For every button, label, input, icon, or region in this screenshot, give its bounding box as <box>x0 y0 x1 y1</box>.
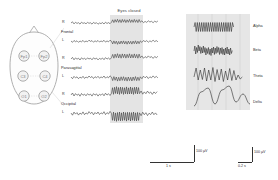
head-montage-panel: Fp1 Fp2 C3 C4 O1 <box>2 22 64 106</box>
waveform-delta <box>194 86 250 106</box>
frequency-band-panel: Alpha Beta Theta Delta <box>186 14 278 114</box>
head-diagram: Fp1 Fp2 C3 C4 O1 <box>2 22 64 106</box>
svg-text:Fp1: Fp1 <box>21 54 29 59</box>
waveform-parasagittal-r <box>71 54 158 60</box>
scalebar-right-amp-label: 100 µV <box>254 150 265 154</box>
waveform-alpha <box>194 23 234 32</box>
electrode-o1[interactable]: O1 <box>19 91 29 101</box>
waveform-occipital-l <box>71 111 157 121</box>
electrode-c4[interactable]: C4 <box>40 71 50 81</box>
scalebar-right-amp-line <box>252 147 253 162</box>
svg-text:C3: C3 <box>20 74 26 79</box>
scalebar-left-amp-line <box>194 145 195 162</box>
electrode-fp2[interactable]: Fp2 <box>39 51 49 61</box>
eeg-figure: Fp1 Fp2 C3 C4 O1 <box>0 0 278 180</box>
electrode-fp1[interactable]: Fp1 <box>19 51 29 61</box>
scalebar-left-time-label: 1 s <box>166 164 171 168</box>
head-outline <box>10 32 58 104</box>
svg-text:O2: O2 <box>41 94 47 99</box>
scalebar-left-amp-label: 100 µV <box>196 149 207 153</box>
waveform-frontal-r <box>71 19 158 24</box>
eyes-closed-title: Eyes closed <box>94 8 164 13</box>
svg-text:O1: O1 <box>21 94 27 99</box>
electrode-o2[interactable]: O2 <box>39 91 49 101</box>
waveform-theta <box>194 68 242 82</box>
waveform-parasagittal-l <box>71 76 158 81</box>
waveform-frontal-l <box>71 40 158 44</box>
band-label-delta: Delta <box>253 100 262 104</box>
band-label-theta: Theta <box>253 74 263 78</box>
scalebar-left: 1 s 100 µV <box>150 140 210 170</box>
scalebar-right-time-label: 0.2 s <box>238 164 246 168</box>
eeg-trace-panel: Eyes closed R L R L R L Frontal Parasagi… <box>60 8 178 123</box>
band-label-beta: Beta <box>253 48 261 52</box>
band-waveforms <box>186 14 278 114</box>
svg-text:Fp2: Fp2 <box>41 54 49 59</box>
waveform-occipital-r <box>71 87 157 97</box>
waveform-beta <box>194 45 232 56</box>
electrode-c3[interactable]: C3 <box>18 71 28 81</box>
scalebar-left-time-line <box>150 162 194 163</box>
eeg-waveforms <box>60 14 178 126</box>
svg-text:C4: C4 <box>42 74 48 79</box>
band-label-alpha: Alpha <box>253 24 263 28</box>
scalebar-right: 0.2 s 100 µV <box>238 140 278 170</box>
